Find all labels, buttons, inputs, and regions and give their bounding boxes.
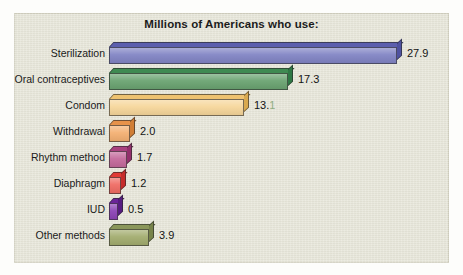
bar-row: Oral contraceptives17.3 [0, 66, 435, 92]
bar-front-face [109, 203, 118, 220]
bar-side-face [127, 142, 132, 164]
bar-gloss [110, 230, 148, 245]
bar-front-face [109, 47, 397, 64]
bar-row: Diaphragm1.2 [0, 170, 435, 196]
category-label: Sterilization [0, 40, 105, 66]
bar-side-face [397, 38, 402, 60]
bar-side-face [149, 220, 154, 242]
bar-row: Sterilization27.9 [0, 40, 435, 66]
bar-gloss [110, 74, 287, 89]
category-label: Condom [0, 92, 105, 118]
bar-gloss [110, 152, 126, 167]
bar-gloss [110, 100, 243, 115]
bar-top-face [109, 42, 404, 47]
category-label: Diaphragm [0, 170, 105, 196]
bar-front-face [109, 229, 149, 246]
bar-front-face [109, 125, 130, 142]
bar-front-face [109, 99, 244, 116]
bar-row: Other methods3.9 [0, 222, 435, 248]
bar-side-face [130, 116, 135, 138]
category-label: IUD [0, 196, 105, 222]
bar-gloss [110, 48, 396, 63]
value-label: 3.9 [159, 222, 174, 248]
bar-side-face [118, 194, 123, 216]
bar-row: IUD0.5 [0, 196, 435, 222]
bar-gloss [110, 126, 129, 141]
value-label: 1.7 [137, 144, 152, 170]
bar-gloss [110, 204, 117, 219]
category-label: Withdrawal [0, 118, 105, 144]
bar-side-face [288, 64, 293, 86]
bar-side-face [121, 168, 126, 190]
value-label: 0.5 [128, 196, 143, 222]
bar-chart-plot-area: Sterilization27.9Oral contraceptives17.3… [0, 40, 435, 248]
bar-front-face [109, 151, 127, 168]
value-label: 27.9 [407, 40, 428, 66]
bar-row: Withdrawal2.0 [0, 118, 435, 144]
chart-screenshot: Millions of Americans who use: Steriliza… [0, 0, 463, 275]
bar-row: Condom13.1 [0, 92, 435, 118]
bar-top-face [109, 68, 295, 73]
bar-top-face [109, 94, 251, 99]
value-label: 2.0 [140, 118, 155, 144]
category-label: Rhythm method [0, 144, 105, 170]
value-label: 13.1 [254, 92, 275, 118]
bar-front-face [109, 73, 288, 90]
bar-gloss [110, 178, 120, 193]
bar-front-face [109, 177, 121, 194]
value-label: 17.3 [298, 66, 319, 92]
value-label: 1.2 [131, 170, 146, 196]
bar-row: Rhythm method1.7 [0, 144, 435, 170]
bar-side-face [244, 90, 249, 112]
category-label: Oral contraceptives [0, 66, 105, 92]
category-label: Other methods [0, 222, 105, 248]
chart-title: Millions of Americans who use: [0, 18, 463, 30]
